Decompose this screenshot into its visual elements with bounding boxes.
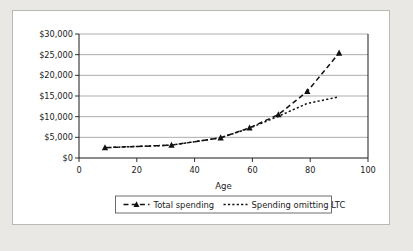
data-point-marker	[336, 50, 342, 56]
chart-card: $0$5,000$10,000$15,000$20,000$25,000$30,…	[12, 10, 390, 225]
y-tick-marks-group	[75, 34, 79, 158]
x-tick-label: 0	[76, 165, 81, 175]
data-point-marker	[304, 88, 310, 94]
legend-label-total-spending: Total spending	[153, 200, 215, 210]
gridlines-group	[79, 34, 368, 137]
series-line-total-spending	[105, 53, 339, 148]
y-tick-label: $20,000	[39, 70, 73, 80]
chart-figure: $0$5,000$10,000$15,000$20,000$25,000$30,…	[13, 11, 389, 224]
y-axis-tick-labels: $0$5,000$10,000$15,000$20,000$25,000$30,…	[39, 29, 73, 163]
x-tick-label: 80	[305, 165, 315, 175]
series-markers-total-spending	[102, 50, 342, 151]
y-tick-label: $0	[63, 153, 73, 163]
x-tick-label: 100	[360, 165, 376, 175]
x-tick-marks-group	[79, 158, 368, 162]
x-tick-label: 40	[189, 165, 199, 175]
x-tick-label: 60	[247, 165, 257, 175]
x-tick-label: 20	[132, 165, 142, 175]
y-tick-label: $5,000	[44, 132, 73, 142]
spending-by-age-line-chart: $0$5,000$10,000$15,000$20,000$25,000$30,…	[13, 11, 389, 224]
legend-label-spending-omitting-ltc: Spending omitting LTC	[252, 200, 346, 210]
x-axis-tick-labels: 020406080100	[76, 165, 375, 175]
y-tick-label: $30,000	[39, 29, 73, 39]
y-tick-label: $25,000	[39, 50, 73, 60]
y-tick-label: $10,000	[39, 112, 73, 122]
y-tick-label: $15,000	[39, 91, 73, 101]
x-axis-title: Age	[215, 181, 232, 191]
page-background: $0$5,000$10,000$15,000$20,000$25,000$30,…	[0, 0, 413, 251]
